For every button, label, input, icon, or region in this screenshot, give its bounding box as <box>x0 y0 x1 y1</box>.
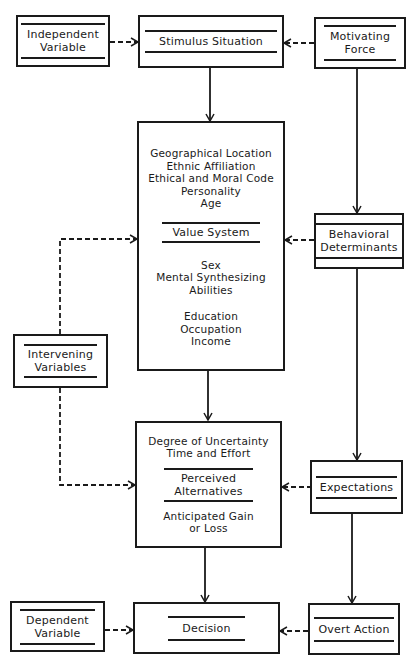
item: Degree of Uncertainty <box>148 435 269 448</box>
node-title: Stimulus Situation <box>145 30 277 53</box>
item: Geographical Location <box>148 147 274 160</box>
node-title: Perceived Alternatives <box>164 468 252 502</box>
title-line: Intervening <box>28 348 93 361</box>
node-title: Intervening Variables <box>24 344 97 378</box>
title-line: Variable <box>26 627 89 640</box>
item: Ethical and Moral Code <box>148 172 274 185</box>
item: Occupation <box>180 323 242 336</box>
node-stimulus-situation: Stimulus Situation <box>138 15 284 68</box>
item: Age <box>148 197 274 210</box>
item: or Loss <box>163 522 254 535</box>
node-dependent-variable: Dependent Variable <box>10 601 105 652</box>
node-title: Dependent Variable <box>20 609 95 645</box>
item: Income <box>180 335 242 348</box>
node-title: Overt Action <box>314 617 393 642</box>
node-overt-action: Overt Action <box>308 603 400 655</box>
perceived-pre-items: Degree of Uncertainty Time and Effort <box>148 435 269 460</box>
node-expectations: Expectations <box>310 460 403 514</box>
value-pre-items: Geographical Location Ethnic Affiliation… <box>148 147 274 210</box>
value-post-items-1: Sex Mental Synthesizing Abilities <box>156 259 266 297</box>
title-line: Independent <box>27 28 99 41</box>
node-perceived-alternatives: Degree of Uncertainty Time and Effort Pe… <box>135 421 282 548</box>
perceived-post-items: Anticipated Gain or Loss <box>163 510 254 535</box>
node-title: Motivating Force <box>324 25 396 61</box>
node-intervening-variables: Intervening Variables <box>13 334 108 388</box>
item: Education <box>180 310 242 323</box>
node-title: Decision <box>168 616 244 641</box>
title-line: Variable <box>27 41 99 54</box>
item: Sex <box>156 259 266 272</box>
node-title: Value System <box>162 222 259 243</box>
item: Anticipated Gain <box>163 510 254 523</box>
title-line: Perceived <box>174 472 242 485</box>
title-line: Force <box>330 43 390 56</box>
title-line: Dependent <box>26 614 89 627</box>
edge-intervening-to-perceived <box>60 388 135 485</box>
node-motivating-force: Motivating Force <box>314 17 406 69</box>
title-line: Variables <box>28 361 93 374</box>
value-post-items-2: Education Occupation Income <box>180 310 242 348</box>
node-title: Behavioral Determinants <box>316 223 402 259</box>
item: Time and Effort <box>148 447 269 460</box>
node-independent-variable: Independent Variable <box>16 15 110 67</box>
node-decision: Decision <box>133 602 280 654</box>
node-title: Expectations <box>316 476 398 499</box>
node-title: Independent Variable <box>21 23 105 59</box>
node-value-system: Geographical Location Ethnic Affiliation… <box>137 121 285 371</box>
title-line: Alternatives <box>174 485 242 498</box>
item: Ethnic Affiliation <box>148 160 274 173</box>
title-line: Determinants <box>320 241 398 254</box>
node-behavioral-determinants: Behavioral Determinants <box>314 213 404 269</box>
item: Personality <box>148 185 274 198</box>
title-line: Motivating <box>330 30 390 43</box>
item: Abilities <box>156 284 266 297</box>
item: Mental Synthesizing <box>156 271 266 284</box>
title-line: Behavioral <box>320 228 398 241</box>
edge-intervening-to-value <box>60 239 137 334</box>
